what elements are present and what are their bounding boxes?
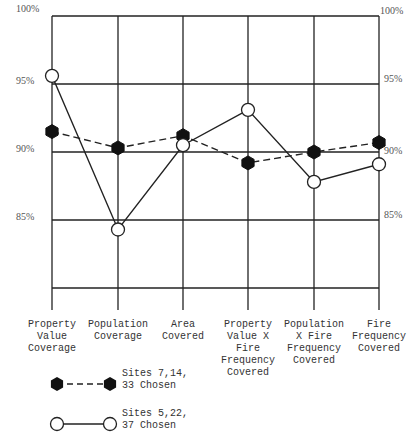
grid xyxy=(52,16,379,310)
x-category-label: Property Value X Fire Frequency Covered xyxy=(213,319,283,379)
y-tick-right: 95% xyxy=(384,73,402,84)
circle-marker xyxy=(112,223,125,236)
hexagon-marker xyxy=(46,125,58,139)
circle-marker xyxy=(46,69,59,82)
series-line-0 xyxy=(52,132,379,163)
legend-hexagon-icon xyxy=(104,377,116,391)
legend-hexagon-icon xyxy=(51,377,63,391)
legend-markers xyxy=(51,377,117,431)
circle-marker xyxy=(373,158,386,171)
legend-label-series-b: Sites 5,22, 37 Chosen xyxy=(122,408,188,432)
legend-label-series-a: Sites 7,14, 33 Chosen xyxy=(122,368,188,392)
circle-marker xyxy=(177,139,190,152)
y-tick-left: 85% xyxy=(16,211,34,222)
circle-marker xyxy=(308,175,321,188)
x-category-label: Fire Frequency Covered xyxy=(344,319,414,355)
y-tick-right: 90% xyxy=(384,145,402,156)
y-tick-left: 95% xyxy=(16,75,34,86)
y-tick-left: 90% xyxy=(16,143,34,154)
x-category-label: Population Coverage xyxy=(83,319,153,343)
hexagon-marker xyxy=(112,141,124,155)
y-tick-right: 100% xyxy=(380,5,403,16)
x-category-label: Population X Fire Frequency Covered xyxy=(279,319,349,367)
y-tick-left: 100% xyxy=(16,3,39,14)
circle-marker xyxy=(242,103,255,116)
line-chart xyxy=(0,0,415,442)
y-tick-right: 85% xyxy=(384,209,402,220)
legend-circle-icon xyxy=(51,418,64,431)
series-markers xyxy=(46,69,386,236)
legend-circle-icon xyxy=(104,418,117,431)
x-category-label: Area Covered xyxy=(148,319,218,343)
hexagon-marker xyxy=(308,145,320,159)
x-category-label: Property Value Coverage xyxy=(17,319,87,355)
hexagon-marker xyxy=(242,156,254,170)
